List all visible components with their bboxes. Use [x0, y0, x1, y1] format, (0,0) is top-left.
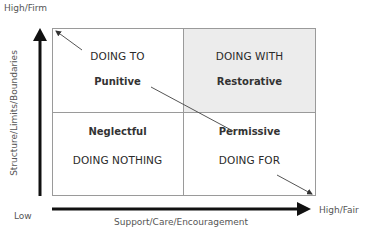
x-axis-arrowhead-icon: [297, 202, 311, 216]
diagonal-line: [151, 87, 233, 131]
diagram-lines: [0, 0, 368, 236]
y-axis-arrowhead-icon: [33, 28, 47, 41]
arrow-to-top-left-icon: [56, 31, 82, 50]
arrow-to-bottom-right-icon: [277, 175, 312, 194]
